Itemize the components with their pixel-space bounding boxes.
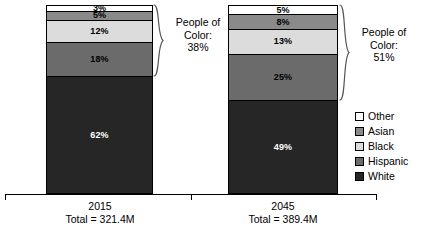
annotation-line-2: Color: bbox=[162, 29, 234, 42]
legend-label-black: Black bbox=[368, 141, 394, 152]
bar-group-2045: 5% 8% 13% 25% 49% bbox=[228, 5, 338, 194]
legend-label-asian: Asian bbox=[368, 126, 394, 137]
segment-value-label: 18% bbox=[90, 55, 108, 64]
legend-swatch-black-icon bbox=[355, 142, 364, 151]
bar-group-2015: 3% 5% 12% 18% 62% bbox=[46, 5, 153, 194]
axis-tick-left bbox=[5, 194, 6, 200]
legend-swatch-hispanic-icon bbox=[355, 157, 364, 166]
segment-value-label: 62% bbox=[90, 131, 108, 140]
bar-segment-white-2045[interactable]: 49% bbox=[229, 101, 337, 193]
bar-segment-white-2015[interactable]: 62% bbox=[47, 77, 152, 193]
bar-segment-other-2045[interactable]: 5% bbox=[229, 6, 337, 15]
bar-segment-asian-2045[interactable]: 8% bbox=[229, 15, 337, 30]
bar-segment-black-2015[interactable]: 12% bbox=[47, 21, 152, 43]
annotation-line-1: People of bbox=[348, 26, 420, 39]
legend-item-black[interactable]: Black bbox=[355, 139, 408, 154]
axis-tick-middle bbox=[191, 194, 192, 200]
segment-value-label: 8% bbox=[276, 18, 289, 27]
stacked-bar-2015[interactable]: 3% 5% 12% 18% 62% bbox=[46, 5, 153, 194]
bar-segment-black-2045[interactable]: 13% bbox=[229, 30, 337, 54]
stacked-bar-chart: 3% 5% 12% 18% 62% 5% 8% 13 bbox=[0, 0, 421, 238]
annotation-line-2: Color: bbox=[348, 39, 420, 52]
stacked-bar-2045[interactable]: 5% 8% 13% 25% 49% bbox=[228, 5, 338, 194]
annotation-people-of-color-2045: People of Color: 51% bbox=[348, 26, 420, 64]
segment-value-label: 49% bbox=[274, 143, 292, 152]
axis-tick-right bbox=[376, 194, 377, 200]
annotation-line-1: People of bbox=[162, 16, 234, 29]
legend-label-other: Other bbox=[368, 111, 394, 122]
segment-value-label: 12% bbox=[90, 27, 108, 36]
segment-value-label: 13% bbox=[274, 37, 292, 46]
legend-swatch-white-icon bbox=[355, 172, 364, 181]
legend-item-hispanic[interactable]: Hispanic bbox=[355, 154, 408, 169]
legend: Other Asian Black Hispanic White bbox=[355, 109, 408, 184]
legend-item-asian[interactable]: Asian bbox=[355, 124, 408, 139]
x-axis-label-2015: 2015 Total = 321.4M bbox=[30, 200, 170, 226]
x-axis-total-2045: Total = 389.4M bbox=[213, 213, 353, 226]
bar-segment-hispanic-2045[interactable]: 25% bbox=[229, 55, 337, 102]
legend-swatch-asian-icon bbox=[355, 127, 364, 136]
segment-value-label: 5% bbox=[93, 12, 106, 21]
legend-swatch-other-icon bbox=[355, 112, 364, 121]
legend-item-white[interactable]: White bbox=[355, 169, 408, 184]
annotation-people-of-color-2015: People of Color: 38% bbox=[162, 16, 234, 54]
annotation-line-3: 38% bbox=[162, 41, 234, 54]
legend-item-other[interactable]: Other bbox=[355, 109, 408, 124]
annotation-line-3: 51% bbox=[348, 51, 420, 64]
x-axis-category-2015: 2015 bbox=[30, 200, 170, 213]
legend-label-hispanic: Hispanic bbox=[368, 156, 408, 167]
bar-segment-asian-2015[interactable]: 5% bbox=[47, 12, 152, 21]
x-axis-label-2045: 2045 Total = 389.4M bbox=[213, 200, 353, 226]
bar-segment-hispanic-2015[interactable]: 18% bbox=[47, 43, 152, 77]
x-axis-category-2045: 2045 bbox=[213, 200, 353, 213]
legend-label-white: White bbox=[368, 171, 395, 182]
segment-value-label: 25% bbox=[274, 73, 292, 82]
x-axis-total-2015: Total = 321.4M bbox=[30, 213, 170, 226]
segment-value-label: 5% bbox=[276, 6, 289, 15]
